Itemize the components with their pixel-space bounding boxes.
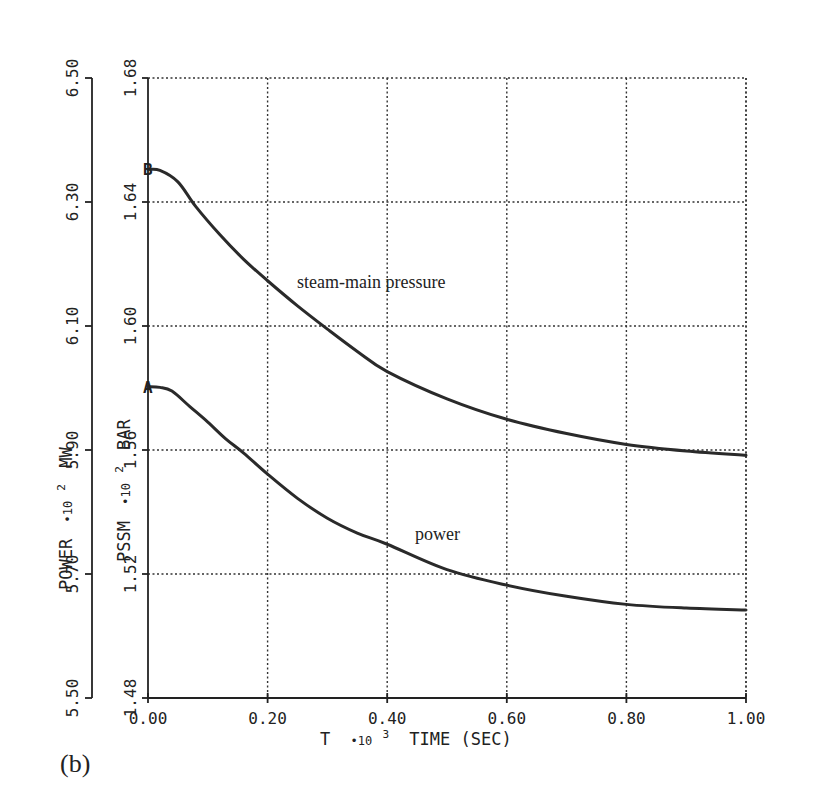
x-tick-label: 0.20 [248, 709, 287, 728]
x-axis-title-exp: 3 [382, 728, 389, 741]
pssm-tick-label: 1.48 [121, 679, 140, 718]
x-tick-label: 0.80 [607, 709, 646, 728]
pssm-axis-title: PSSM •10 2 BAR [107, 419, 134, 562]
chart: 0.000.200.400.600.801.001.481.521.561.60… [0, 0, 824, 808]
pssm-axis-title-exp: 2 [113, 466, 126, 473]
power-axis-title-var: POWER [56, 538, 76, 590]
pssm-tick-label: 1.68 [121, 59, 140, 98]
power-tick-label: 6.30 [63, 183, 82, 222]
steam-pressure-annotation: steam-main pressure [297, 272, 445, 292]
power-tick-label: 5.50 [63, 679, 82, 718]
x-axis-title-mult: •10 [351, 734, 373, 748]
pssm-axis-title-var: PSSM [114, 521, 134, 562]
power-axis-title: POWER •10 2 MW [49, 447, 76, 590]
steam-main-pressure-marker: B [143, 160, 153, 179]
power-tick-label: 6.50 [63, 59, 82, 98]
panel-label: (b) [60, 749, 90, 778]
pssm-tick-label: 1.60 [121, 307, 140, 346]
axes [85, 78, 746, 703]
power-axis-title-exp: 2 [55, 484, 68, 491]
pssm-axis-title-mult: •10 [119, 483, 133, 505]
x-tick-label: 0.60 [488, 709, 527, 728]
tick-labels: 0.000.200.400.600.801.001.481.521.561.60… [63, 59, 765, 728]
steam-main-pressure-curve [148, 169, 746, 455]
x-axis-title-rest: TIME (SEC) [409, 729, 511, 749]
power-annotation: power [415, 524, 460, 544]
power-marker: A [143, 378, 153, 397]
power-axis-title-unit: MW [56, 447, 76, 468]
power-tick-label: 6.10 [63, 307, 82, 346]
x-tick-label: 0.40 [368, 709, 407, 728]
power-axis-title-mult: •10 [61, 501, 75, 523]
pssm-axis-title-unit: BAR [114, 419, 134, 450]
x-axis-title: T •10 3 TIME (SEC) [320, 722, 512, 749]
x-tick-label: 1.00 [727, 709, 766, 728]
grid [148, 78, 746, 698]
x-axis-title-var: T [320, 729, 330, 749]
power-curve [148, 387, 746, 610]
pssm-tick-label: 1.64 [121, 183, 140, 222]
